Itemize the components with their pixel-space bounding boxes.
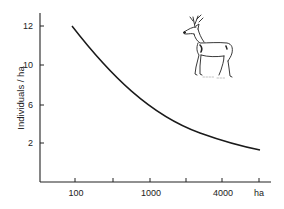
density-chart: 12 10 6 2 100 1000 4000 ha Individuals /… xyxy=(0,0,284,209)
x-tick-1000: 1000 xyxy=(141,188,161,198)
y-tick-12: 12 xyxy=(23,21,33,31)
x-tick-4000: 4000 xyxy=(213,188,233,198)
y-axis-title: Individuals / ha xyxy=(15,66,26,130)
x-axis-unit: ha xyxy=(254,188,264,198)
x-tick-100: 100 xyxy=(68,188,83,198)
y-tick-2: 2 xyxy=(28,138,33,148)
y-tick-6: 6 xyxy=(28,100,33,110)
y-ticks: 12 10 6 2 xyxy=(23,21,44,148)
x-ticks: 100 1000 4000 ha xyxy=(68,178,264,198)
deer-icon xyxy=(184,15,233,78)
density-curve xyxy=(72,26,260,150)
